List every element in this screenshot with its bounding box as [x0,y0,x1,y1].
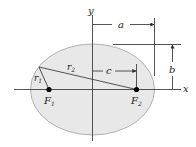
a-label: a [118,19,124,30]
x-axis-label: x [183,83,189,94]
focus-f1 [46,87,51,92]
c-label: c [106,65,112,76]
b-label: b [169,64,175,75]
focus-f2 [134,87,139,92]
y-axis-label: y [87,5,94,16]
ellipse-diagram: y x a b c r1 r2 F1 F2 [0,0,196,147]
